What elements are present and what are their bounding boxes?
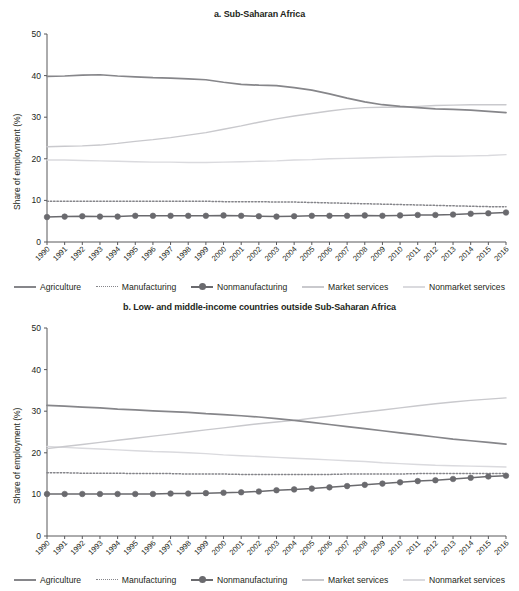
svg-text:50: 50 [32, 323, 42, 333]
svg-text:2000: 2000 [210, 245, 228, 263]
svg-text:2007: 2007 [333, 245, 351, 263]
legend-item-nonmarket-services: Nonmarket services [403, 575, 505, 585]
svg-text:10: 10 [32, 195, 42, 205]
svg-text:2012: 2012 [422, 539, 440, 557]
svg-text:20: 20 [32, 154, 42, 164]
legend-item-market-services: Market services [302, 282, 388, 292]
svg-text:2013: 2013 [439, 245, 457, 263]
legend-label: Market services [328, 282, 388, 292]
legend-label: Agriculture [40, 282, 81, 292]
legend-item-manufacturing: Manufacturing [96, 575, 176, 585]
legend-label: Nonmarket services [429, 575, 505, 585]
svg-text:2007: 2007 [333, 539, 351, 557]
legend-label: Nonmarket services [429, 282, 505, 292]
legend-line-icon [302, 286, 324, 288]
legend-swatch-nonmarket_services-icon [403, 575, 425, 585]
svg-text:50: 50 [32, 29, 42, 39]
legend-label: Nonmanufacturing [217, 575, 287, 585]
svg-text:10: 10 [32, 489, 42, 499]
legend-label: Nonmanufacturing [217, 282, 287, 292]
legend-dotted-line-icon [96, 286, 118, 287]
panel-b-plot: 0102030405019901991199219931994199519961… [0, 296, 519, 591]
svg-text:30: 30 [32, 406, 42, 416]
svg-text:2004: 2004 [280, 539, 298, 557]
legend-swatch-nonmarket_services-icon [403, 282, 425, 292]
svg-text:2014: 2014 [457, 245, 475, 263]
svg-text:1997: 1997 [157, 539, 175, 557]
svg-text:2005: 2005 [298, 245, 316, 263]
legend-label: Manufacturing [122, 575, 176, 585]
legend-swatch-market_services-icon [302, 282, 324, 292]
svg-text:2009: 2009 [369, 539, 387, 557]
svg-text:2002: 2002 [245, 539, 263, 557]
svg-text:2016: 2016 [492, 245, 510, 263]
panel-a-legend: AgricultureManufacturingNonmanufacturing… [0, 279, 519, 295]
svg-text:2004: 2004 [280, 245, 298, 263]
legend-item-nonmarket-services: Nonmarket services [403, 282, 505, 292]
legend-line-icon [403, 286, 425, 288]
legend-swatch-nonmanufacturing-icon [191, 282, 213, 292]
legend-dotted-line-icon [96, 579, 118, 580]
svg-text:2008: 2008 [351, 539, 369, 557]
svg-text:1997: 1997 [157, 245, 175, 263]
svg-text:2003: 2003 [263, 245, 281, 263]
panel-b-legend: AgricultureManufacturingNonmanufacturing… [0, 572, 519, 588]
svg-text:2011: 2011 [404, 245, 422, 263]
svg-text:1990: 1990 [33, 245, 51, 263]
legend-item-agriculture: Agriculture [14, 282, 81, 292]
legend-item-manufacturing: Manufacturing [96, 282, 176, 292]
svg-text:1994: 1994 [104, 245, 122, 263]
svg-text:1995: 1995 [122, 539, 140, 557]
svg-text:2015: 2015 [475, 539, 493, 557]
svg-text:40: 40 [32, 365, 42, 375]
panel-a-plot: 0102030405019901991199219931994199519961… [0, 0, 519, 295]
svg-text:1996: 1996 [139, 245, 157, 263]
legend-label: Manufacturing [122, 282, 176, 292]
svg-text:1995: 1995 [122, 245, 140, 263]
legend-item-nonmanufacturing: Nonmanufacturing [191, 282, 287, 292]
svg-text:2005: 2005 [298, 539, 316, 557]
svg-text:1991: 1991 [51, 245, 69, 263]
svg-text:20: 20 [32, 448, 42, 458]
legend-swatch-manufacturing-icon [96, 575, 118, 585]
svg-text:1993: 1993 [86, 245, 104, 263]
chart-panel-a: a. Sub-Saharan Africa Share of employmen… [0, 0, 519, 295]
svg-text:2013: 2013 [439, 539, 457, 557]
svg-text:1994: 1994 [104, 539, 122, 557]
svg-text:1990: 1990 [33, 539, 51, 557]
svg-text:1999: 1999 [192, 245, 210, 263]
legend-item-market-services: Market services [302, 575, 388, 585]
legend-marker-dot-icon [199, 576, 206, 583]
svg-text:1998: 1998 [175, 245, 193, 263]
svg-text:40: 40 [32, 71, 42, 81]
svg-text:1998: 1998 [175, 539, 193, 557]
svg-text:2009: 2009 [369, 245, 387, 263]
legend-line-icon [403, 579, 425, 581]
svg-text:2012: 2012 [422, 245, 440, 263]
legend-swatch-market_services-icon [302, 575, 324, 585]
legend-swatch-agriculture-icon [14, 282, 36, 292]
svg-text:2006: 2006 [316, 539, 334, 557]
legend-item-agriculture: Agriculture [14, 575, 81, 585]
svg-text:2010: 2010 [386, 245, 404, 263]
svg-text:1993: 1993 [86, 539, 104, 557]
legend-swatch-manufacturing-icon [96, 282, 118, 292]
svg-text:2001: 2001 [227, 539, 245, 557]
svg-text:2016: 2016 [492, 539, 510, 557]
svg-text:0: 0 [36, 531, 41, 541]
svg-text:2001: 2001 [227, 245, 245, 263]
svg-text:2011: 2011 [404, 539, 422, 557]
svg-text:2015: 2015 [475, 245, 493, 263]
legend-label: Market services [328, 575, 388, 585]
legend-label: Agriculture [40, 575, 81, 585]
legend-item-nonmanufacturing: Nonmanufacturing [191, 575, 287, 585]
legend-line-icon [14, 286, 36, 288]
svg-text:2002: 2002 [245, 245, 263, 263]
legend-line-icon [302, 579, 324, 581]
svg-text:0: 0 [36, 237, 41, 247]
svg-text:1992: 1992 [69, 245, 87, 263]
svg-text:2003: 2003 [263, 539, 281, 557]
svg-text:2006: 2006 [316, 245, 334, 263]
svg-text:2000: 2000 [210, 539, 228, 557]
svg-text:2008: 2008 [351, 245, 369, 263]
